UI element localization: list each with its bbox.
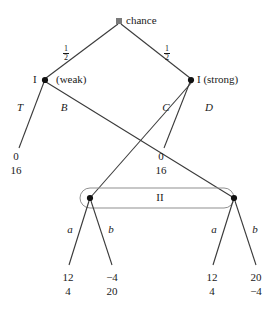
payoff-Bb: −4 20 <box>106 270 118 298</box>
action-a-right-label: a <box>211 224 217 235</box>
action-b-left-label: b <box>108 224 114 235</box>
node-player2-left <box>87 195 93 201</box>
node-player2-right <box>231 195 237 201</box>
payoff-T: 0 16 <box>11 149 22 177</box>
payoff-T-player1: 0 <box>11 149 22 163</box>
information-set-label: II <box>156 192 163 203</box>
probability-right: 1 2 <box>164 45 170 62</box>
edge-strong-C <box>164 82 190 148</box>
action-a-left-label: a <box>67 224 73 235</box>
payoff-Db: 20 −4 <box>250 270 262 298</box>
payoff-T-player2: 16 <box>11 163 22 177</box>
probability-right-denominator: 2 <box>164 54 170 62</box>
edge-weak-T <box>19 82 44 148</box>
edge-weak-B <box>46 82 234 198</box>
player1-weak-label: I <box>33 74 37 85</box>
chance-label: chance <box>126 15 157 26</box>
payoff-Bb-player1: −4 <box>106 270 118 284</box>
payoff-Da-player2: 4 <box>207 284 218 298</box>
payoff-Ba-player2: 4 <box>63 284 74 298</box>
tree-edges-svg <box>0 0 277 316</box>
probability-left: 1 2 <box>63 45 69 62</box>
player1-strong-label: I (strong) <box>197 74 238 85</box>
edge-chance-to-strong <box>121 24 190 78</box>
payoff-Db-player2: −4 <box>250 284 262 298</box>
node-player1-strong <box>188 77 194 83</box>
action-b-right-label: b <box>252 224 258 235</box>
action-D-label: D <box>205 102 213 113</box>
chance-node <box>116 18 122 24</box>
payoff-Ba-player1: 12 <box>63 270 74 284</box>
node-player1-weak <box>42 77 48 83</box>
action-C-label: C <box>162 102 169 113</box>
payoff-Db-player1: 20 <box>250 270 262 284</box>
game-tree-diagram: chance 1 2 1 2 I (weak) I (strong) T B C… <box>0 0 277 316</box>
action-B-label: B <box>61 102 68 113</box>
payoff-C: 0 16 <box>156 149 167 177</box>
payoff-Bb-player2: 20 <box>106 284 118 298</box>
action-T-label: T <box>17 102 23 113</box>
payoff-C-player2: 16 <box>156 163 167 177</box>
payoff-Ba: 12 4 <box>63 270 74 298</box>
payoff-Da: 12 4 <box>207 270 218 298</box>
player1-weak-type-label: (weak) <box>56 74 87 85</box>
payoff-C-player1: 0 <box>156 149 167 163</box>
edge-chance-to-weak <box>46 24 118 78</box>
payoff-Da-player1: 12 <box>207 270 218 284</box>
edge-strong-D <box>90 82 192 198</box>
probability-left-denominator: 2 <box>63 54 69 62</box>
